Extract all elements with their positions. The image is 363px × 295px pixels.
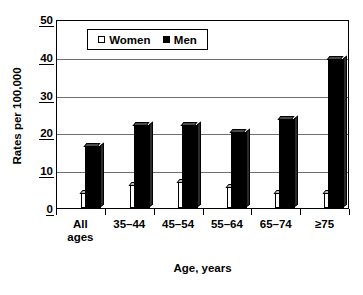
legend-swatch-women-icon xyxy=(98,36,105,43)
bar-side-face xyxy=(100,142,104,207)
x-axis-title: Age, years xyxy=(56,262,349,274)
legend-label-men: Men xyxy=(174,34,197,46)
y-axis-tick-label: 10 xyxy=(30,165,54,177)
x-axis-tick-label: All ages xyxy=(56,218,105,254)
y-axis-tick-label: 30 xyxy=(30,90,54,102)
legend-swatch-men-icon xyxy=(163,36,170,43)
bar-men xyxy=(231,132,247,208)
bar-side-face xyxy=(246,129,250,208)
bar-top-face xyxy=(180,122,197,126)
x-axis-tick-label: ≥75 xyxy=(300,218,349,254)
y-axis-title-text: Rates per 100,000 xyxy=(11,67,23,164)
bar-slot xyxy=(85,146,101,208)
x-axis-tick xyxy=(203,209,204,215)
x-axis-ticks xyxy=(56,209,349,216)
bar-chart: Rates per 100,000 01020304050 All ages35… xyxy=(0,0,363,295)
x-axis-tick-label: 35–44 xyxy=(105,218,154,254)
legend-entry-women: Women xyxy=(98,34,150,46)
x-axis-tick-labels: All ages35–4445–5455–6465–74≥75 xyxy=(56,218,349,254)
legend-label-women: Women xyxy=(109,34,150,46)
bar-side-face xyxy=(149,121,153,207)
x-axis-tick xyxy=(300,209,301,215)
bar-slot xyxy=(231,132,247,208)
y-axis-tick-label: 40 xyxy=(30,52,54,64)
bar-men xyxy=(328,59,344,208)
bar-men xyxy=(134,125,150,208)
y-axis-tick-labels: 01020304050 xyxy=(30,14,54,214)
y-axis-title: Rates per 100,000 xyxy=(0,0,34,232)
bar-group xyxy=(203,21,252,208)
x-axis-tick xyxy=(154,209,155,215)
bar-group xyxy=(251,21,300,208)
x-axis-tick-label: 55–64 xyxy=(202,218,251,254)
x-axis-tick-label: 65–74 xyxy=(251,218,300,254)
bar-men xyxy=(182,125,198,208)
x-axis-tick xyxy=(56,209,57,215)
bar-side-face xyxy=(294,116,298,208)
legend-entry-men: Men xyxy=(163,34,197,46)
bar-top-face xyxy=(83,143,100,147)
bar-top-face xyxy=(326,56,343,60)
bar-slot xyxy=(134,125,150,208)
bar-top-face xyxy=(229,129,246,133)
bar-slot xyxy=(279,119,295,208)
y-axis-tick-label: 20 xyxy=(30,127,54,139)
bar-slot xyxy=(182,125,198,208)
bar-group xyxy=(300,21,349,208)
bar-side-face xyxy=(197,121,201,207)
x-axis-tick-label: 45–54 xyxy=(154,218,203,254)
bar-slot xyxy=(328,59,344,208)
y-axis-tick-label: 50 xyxy=(30,14,54,26)
x-axis-tick xyxy=(349,209,350,215)
x-axis-tick xyxy=(251,209,252,215)
y-axis-tick-label: 0 xyxy=(30,203,54,215)
bar-men xyxy=(85,146,101,208)
x-axis-tick xyxy=(105,209,106,215)
chart-legend: Women Men xyxy=(87,29,208,50)
bar-side-face xyxy=(343,55,347,207)
bar-top-face xyxy=(277,116,294,120)
bar-men xyxy=(279,119,295,208)
bar-top-face xyxy=(132,122,149,126)
